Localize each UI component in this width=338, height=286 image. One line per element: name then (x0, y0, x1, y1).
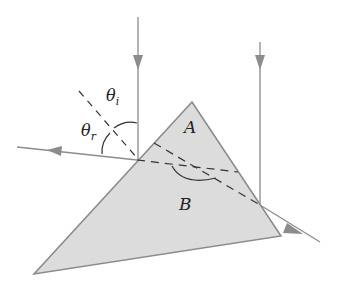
arrowhead-down-left-icon (133, 55, 143, 70)
prism-diagram: θi θr A B (0, 0, 338, 286)
theta-r-label: θr (81, 121, 97, 143)
theta-i-label: θi (106, 86, 119, 108)
prism (34, 102, 281, 274)
arrowhead-down-right-icon (255, 55, 265, 70)
region-a-label: A (182, 117, 196, 137)
reflected-ray (17, 147, 137, 160)
region-b-label: B (178, 194, 192, 214)
theta-i-arc (114, 122, 137, 128)
theta-r-arc (102, 133, 110, 154)
